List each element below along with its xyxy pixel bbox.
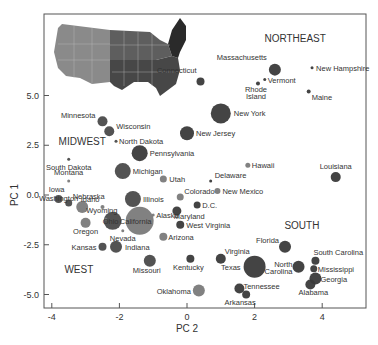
data-point-nevada: [121, 229, 124, 232]
point-label: Kentucky: [173, 263, 204, 272]
point-label: Virginia: [225, 247, 251, 256]
data-point-hawaii: [245, 163, 250, 168]
x-axis-title: PC 2: [176, 323, 199, 334]
point-label: Iowa: [49, 185, 66, 194]
data-point-florida: [279, 241, 291, 253]
point-label: Minnesota: [61, 111, 96, 120]
y-tick-label: -2.5: [23, 240, 39, 250]
point-label: Massachusetts: [217, 53, 267, 62]
point-label: Wyoming: [86, 206, 117, 215]
point-label: Delaware: [215, 171, 247, 180]
data-point-texas: [244, 256, 266, 278]
x-tick-label: 0: [184, 312, 189, 322]
point-label: Maine: [312, 93, 332, 102]
x-tick-label: -2: [115, 312, 123, 322]
data-point-new-hampshire: [311, 66, 314, 69]
point-label: Missouri: [133, 266, 161, 275]
data-point-montana: [67, 180, 70, 183]
data-point-wisconsin: [104, 126, 114, 136]
region-label: MIDWEST: [59, 136, 106, 147]
data-point-oklahoma: [193, 285, 205, 297]
point-label: New York: [234, 109, 266, 118]
point-label: Alabama: [299, 288, 329, 297]
point-label: Idaho: [81, 195, 100, 204]
point-label: D.C.: [202, 201, 217, 210]
point-label: Indiana: [125, 243, 150, 252]
data-point-south-carolina: [311, 257, 319, 265]
data-point-delaware: [209, 180, 212, 183]
point-label: Wisconsin: [116, 122, 150, 131]
map-south: [110, 56, 180, 96]
x-tick-label: 2: [252, 312, 257, 322]
point-label: Colorado: [184, 187, 214, 196]
region-label: WEST: [64, 264, 93, 275]
point-label: Mississippi: [318, 265, 355, 274]
point-label: Tennessee: [243, 282, 279, 291]
data-point-minnesota: [98, 116, 108, 126]
point-label: Hawaii: [252, 161, 275, 170]
data-point-alaska: [152, 213, 155, 216]
data-point-michigan: [115, 163, 131, 179]
region-label: NORTHEAST: [264, 33, 326, 44]
data-point-south-dakota: [67, 158, 70, 161]
data-point-louisiana: [331, 172, 341, 182]
point-label: New Jersey: [196, 129, 235, 138]
point-label: Vermont: [268, 76, 297, 85]
point-label: Arizona: [168, 233, 194, 242]
point-label: Ohio: [103, 217, 119, 226]
point-label: Nevada: [110, 234, 137, 243]
point-label: Louisiana: [320, 162, 353, 171]
data-point-north-carolina: [293, 261, 305, 273]
point-label: Pennsylvania: [150, 149, 195, 158]
point-label: Arkansas: [225, 298, 257, 307]
point-label: New Hampshire: [316, 64, 369, 73]
point-label: Texas: [221, 263, 241, 272]
data-point-illinois: [125, 191, 141, 207]
point-label: Montana: [54, 168, 84, 177]
data-point-kentucky: [186, 255, 194, 263]
point-label: Alaska: [156, 211, 179, 220]
y-tick-label: -5.0: [23, 290, 39, 300]
point-label: Florida: [256, 236, 280, 245]
data-point-west-virginia: [176, 221, 184, 229]
point-label: California: [120, 217, 153, 226]
point-label: North Dakota: [119, 137, 164, 146]
point-label: Connecticut: [157, 66, 198, 75]
data-point-mississippi: [310, 265, 317, 272]
x-tick-label: 4: [320, 312, 325, 322]
map-west: [54, 24, 110, 84]
y-axis-title: PC 1: [9, 183, 20, 206]
point-label: Utah: [169, 175, 185, 184]
region-label: SOUTH: [284, 220, 319, 231]
data-point-new-mexico: [214, 188, 220, 194]
data-point-new-jersey: [180, 126, 194, 140]
point-label: Oklahoma: [157, 287, 192, 296]
data-point-colorado: [177, 193, 184, 200]
point-label: West Virginia: [186, 221, 231, 230]
point-label: Oregon: [73, 227, 98, 236]
point-label: Island: [246, 92, 266, 101]
point-label: Carolina: [265, 267, 294, 276]
x-tick-label: -4: [48, 312, 56, 322]
point-label: New Mexico: [222, 187, 263, 196]
data-point-maine: [307, 90, 311, 94]
data-point-vermont: [263, 78, 266, 81]
pca-scatter-chart: -4-20245.02.50.0-2.5-5.0 PC 2 PC 1 NORTH…: [0, 0, 378, 345]
y-tick-label: 5.0: [26, 91, 39, 101]
point-label: Georgia: [320, 275, 348, 284]
y-tick-label: 0.0: [26, 190, 39, 200]
map-northeast: [168, 18, 186, 58]
point-label: Michigan: [133, 167, 163, 176]
point-label: Washington: [39, 194, 78, 203]
data-point-north-dakota: [115, 140, 118, 143]
point-label: Kansas: [71, 243, 96, 252]
y-tick-label: 2.5: [26, 140, 39, 150]
data-point-new-york: [211, 103, 231, 123]
data-point-kansas: [99, 243, 107, 251]
point-label: Illinois: [143, 195, 164, 204]
point-label: South Carolina: [313, 248, 363, 257]
us-map-inset: [54, 18, 186, 96]
data-point-pennsylvania: [132, 145, 148, 161]
data-point-connecticut: [197, 78, 205, 86]
data-point-utah: [160, 176, 167, 183]
